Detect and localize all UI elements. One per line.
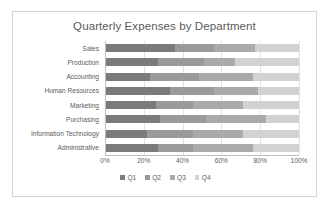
- chart-legend: Q1Q2Q3Q4: [13, 174, 318, 181]
- x-axis-tick-label: 100%: [291, 157, 308, 164]
- stacked-bar: [106, 130, 299, 138]
- bar-segment-q3[interactable]: [199, 73, 253, 81]
- stacked-bar: [106, 115, 299, 123]
- bar-row[interactable]: [106, 127, 299, 141]
- bar-segment-q3[interactable]: [193, 144, 253, 152]
- legend-label: Q4: [202, 174, 211, 181]
- bar-segment-q4[interactable]: [243, 101, 299, 109]
- bar-segment-q4[interactable]: [253, 73, 299, 81]
- y-axis-label: Production: [13, 55, 104, 69]
- stacked-bar: [106, 44, 299, 52]
- y-axis-category-labels: SalesProductionAccountingHuman Resources…: [13, 41, 104, 155]
- y-axis-label: Accounting: [13, 70, 104, 84]
- bar-segment-q1[interactable]: [106, 58, 158, 66]
- bar-row[interactable]: [106, 41, 299, 55]
- stacked-bar: [106, 73, 299, 81]
- bar-row[interactable]: [106, 141, 299, 155]
- legend-item-q4[interactable]: Q4: [195, 174, 211, 181]
- bar-segment-q3[interactable]: [214, 87, 258, 95]
- legend-item-q1[interactable]: Q1: [120, 174, 136, 181]
- bar-segment-q4[interactable]: [253, 144, 299, 152]
- bar-segment-q4[interactable]: [243, 130, 299, 138]
- bar-segment-q2[interactable]: [156, 101, 193, 109]
- y-axis-label: Administrative: [13, 141, 104, 155]
- legend-swatch-icon: [120, 175, 125, 180]
- bar-row[interactable]: [106, 84, 299, 98]
- bar-segment-q2[interactable]: [170, 87, 214, 95]
- legend-swatch-icon: [170, 175, 175, 180]
- bar-segment-q3[interactable]: [204, 58, 235, 66]
- legend-swatch-icon: [195, 175, 200, 180]
- legend-label: Q1: [127, 174, 136, 181]
- x-axis-tick-label: 60%: [215, 157, 228, 164]
- legend-label: Q3: [177, 174, 186, 181]
- stacked-bar: [106, 101, 299, 109]
- bar-segment-q1[interactable]: [106, 144, 158, 152]
- x-axis-tick-label: 20%: [137, 157, 150, 164]
- legend-label: Q2: [152, 174, 161, 181]
- bar-segment-q1[interactable]: [106, 115, 160, 123]
- legend-item-q2[interactable]: Q2: [145, 174, 161, 181]
- bar-segment-q2[interactable]: [158, 58, 204, 66]
- legend-item-q3[interactable]: Q3: [170, 174, 186, 181]
- y-axis-label: Information Technology: [13, 127, 104, 141]
- x-axis-tick-label: 0%: [100, 157, 110, 164]
- gridline: [299, 41, 300, 155]
- bar-segment-q2[interactable]: [150, 73, 198, 81]
- y-axis-label: Marketing: [13, 98, 104, 112]
- x-axis-tick-label: 80%: [254, 157, 267, 164]
- plot-area: [105, 41, 299, 155]
- bar-segment-q4[interactable]: [258, 87, 299, 95]
- chart-container: Quarterly Expenses by Department SalesPr…: [12, 11, 317, 197]
- bar-row[interactable]: [106, 112, 299, 126]
- bar-segment-q4[interactable]: [266, 115, 299, 123]
- bar-segment-q4[interactable]: [255, 44, 299, 52]
- x-axis-tick-label: 40%: [176, 157, 189, 164]
- bar-segment-q2[interactable]: [158, 144, 193, 152]
- plot-wrapper: SalesProductionAccountingHuman Resources…: [13, 41, 318, 161]
- bar-segment-q2[interactable]: [160, 115, 206, 123]
- bar-segment-q1[interactable]: [106, 73, 150, 81]
- x-axis-tick-labels: 0%20%40%60%80%100%: [105, 157, 299, 169]
- y-axis-label: Sales: [13, 41, 104, 55]
- bar-segment-q3[interactable]: [214, 44, 255, 52]
- y-axis-label: Human Resources: [13, 84, 104, 98]
- y-axis-label: Purchasing: [13, 112, 104, 126]
- bar-segment-q1[interactable]: [106, 130, 147, 138]
- bar-segment-q2[interactable]: [147, 130, 193, 138]
- stacked-bar: [106, 58, 299, 66]
- bar-segment-q4[interactable]: [235, 58, 299, 66]
- stacked-bar: [106, 144, 299, 152]
- stacked-bar: [106, 87, 299, 95]
- bar-segment-q2[interactable]: [175, 44, 214, 52]
- bar-segment-q1[interactable]: [106, 101, 156, 109]
- legend-swatch-icon: [145, 175, 150, 180]
- bar-segment-q3[interactable]: [193, 130, 243, 138]
- x-axis-line: [105, 155, 299, 156]
- bar-segment-q1[interactable]: [106, 87, 170, 95]
- chart-title: Quarterly Expenses by Department: [13, 20, 316, 32]
- bar-segment-q3[interactable]: [206, 115, 266, 123]
- bar-row[interactable]: [106, 98, 299, 112]
- bar-row[interactable]: [106, 70, 299, 84]
- bar-row[interactable]: [106, 55, 299, 69]
- bar-segment-q1[interactable]: [106, 44, 175, 52]
- bar-segment-q3[interactable]: [193, 101, 243, 109]
